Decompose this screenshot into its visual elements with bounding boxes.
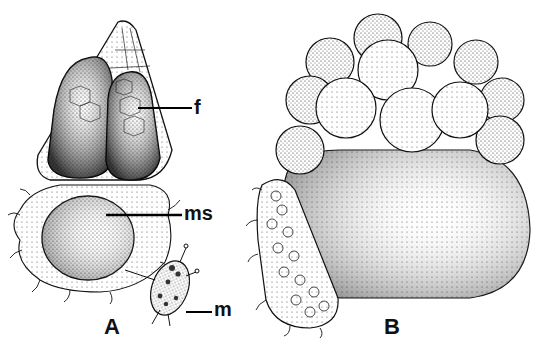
panel-label-b: B [384, 314, 400, 340]
label-ms: ms [184, 202, 213, 225]
illustration [0, 0, 544, 352]
label-m: m [214, 298, 232, 321]
figure: f ms m A B [0, 0, 544, 352]
label-f: f [194, 96, 201, 119]
panel-label-a: A [104, 314, 120, 340]
panel-a-drawing [8, 21, 212, 326]
panel-b-drawing [246, 14, 530, 338]
